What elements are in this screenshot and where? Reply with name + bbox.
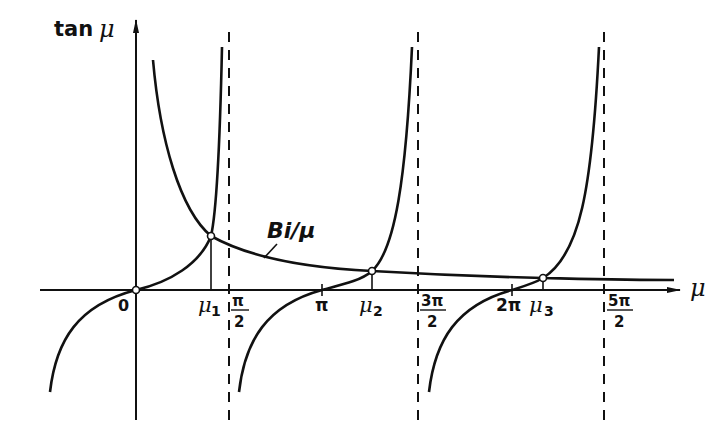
y-axis-label-symbol: μ: [99, 15, 115, 43]
tick-label-mu3-sub: 3: [544, 303, 554, 319]
y-axis-label-text: tan: [54, 17, 93, 41]
tick-label-two-pi: 2π: [496, 295, 521, 315]
tick-label-5pi-half-num: 5π: [608, 292, 630, 310]
tick-label-zero: 0: [118, 296, 129, 315]
tick-label-mu1: μ: [198, 293, 212, 317]
tick-label-3pi-half-den: 2: [427, 313, 437, 331]
tick-label-pi-half-num: π: [232, 292, 244, 310]
tick-label-mu2-sub: 2: [373, 303, 383, 319]
tick-label-mu1-sub: 1: [211, 303, 221, 319]
tick-label-pi-half-den: 2: [234, 313, 244, 331]
tan-mu-diagram: tan μ μ Bi/μ 0 μ 1 π 2 π μ 2 3π 2 2π μ 3…: [0, 0, 726, 446]
tick-label-5pi-half-den: 2: [614, 313, 624, 331]
tan-branch-2: [239, 47, 412, 392]
tick-label-pi: π: [315, 295, 328, 315]
mu1-point: [208, 233, 215, 240]
curve-label-leader: [264, 244, 277, 258]
tan-branch-3: [429, 47, 599, 392]
tick-label-mu3: μ: [529, 293, 543, 317]
tick-label-mu2: μ: [359, 293, 373, 317]
x-axis-label: μ: [690, 274, 706, 302]
curve-label-bi-over-mu: Bi/μ: [267, 218, 316, 243]
origin-point: [133, 287, 140, 294]
mu2-point: [369, 268, 376, 275]
tick-label-3pi-half-num: 3π: [421, 292, 443, 310]
mu3-point: [540, 275, 547, 282]
